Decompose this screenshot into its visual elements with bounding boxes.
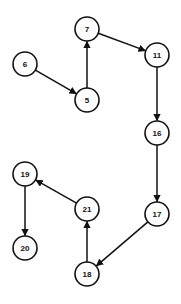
edge-21-to-19 [36,180,77,203]
node-label: 16 [153,129,162,138]
node-label: 5 [85,96,90,105]
node-label: 11 [153,51,162,60]
node-label: 6 [23,60,28,69]
edge-17-to-18 [96,222,147,266]
node-label: 7 [85,25,90,34]
node-label: 21 [83,205,92,214]
graph-canvas: 76115161921172018 [0,0,181,304]
node-label: 19 [21,170,30,179]
node-5: 5 [75,88,99,112]
edge-7-to-11 [98,33,145,50]
node-6: 6 [13,52,37,76]
node-label: 17 [153,210,162,219]
nodes-layer: 76115161921172018 [13,17,169,286]
node-20: 20 [13,236,37,260]
node-7: 7 [75,17,99,41]
node-label: 18 [83,270,92,279]
edge-6-to-5 [35,70,76,94]
node-19: 19 [13,162,37,186]
node-11: 11 [145,43,169,67]
edges-layer [25,33,157,266]
node-18: 18 [75,262,99,286]
node-21: 21 [75,197,99,221]
node-16: 16 [145,121,169,145]
node-17: 17 [145,202,169,226]
node-label: 20 [21,244,30,253]
